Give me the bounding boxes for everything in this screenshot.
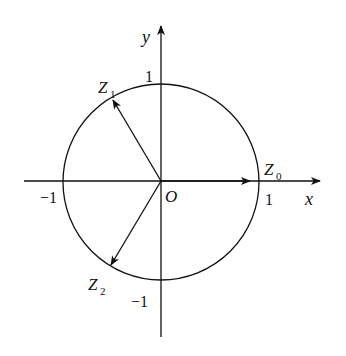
tick-x-pos: 1 — [265, 191, 273, 208]
svg-text:Z: Z — [88, 275, 98, 294]
origin-label: O — [165, 187, 177, 206]
svg-text:0: 0 — [276, 170, 282, 182]
label-z2: Z 2 — [88, 275, 106, 297]
label-z0: Z 0 — [264, 160, 282, 182]
unit-circle-diagram: y x O 1 −1 1 −1 Z 0 Z 1 Z 2 — [0, 0, 346, 356]
tick-x-neg: −1 — [40, 189, 57, 206]
x-axis-label: x — [304, 189, 313, 209]
vector-z1 — [113, 100, 161, 181]
svg-text:Z: Z — [98, 78, 108, 97]
tick-y-neg: −1 — [131, 293, 148, 310]
svg-text:2: 2 — [100, 285, 106, 297]
svg-text:Z: Z — [264, 160, 274, 179]
label-z1: Z 1 — [98, 78, 116, 100]
tick-y-pos: 1 — [145, 68, 153, 85]
svg-text:1: 1 — [110, 88, 116, 100]
vector-z2 — [111, 181, 161, 265]
y-axis-label: y — [140, 27, 150, 47]
